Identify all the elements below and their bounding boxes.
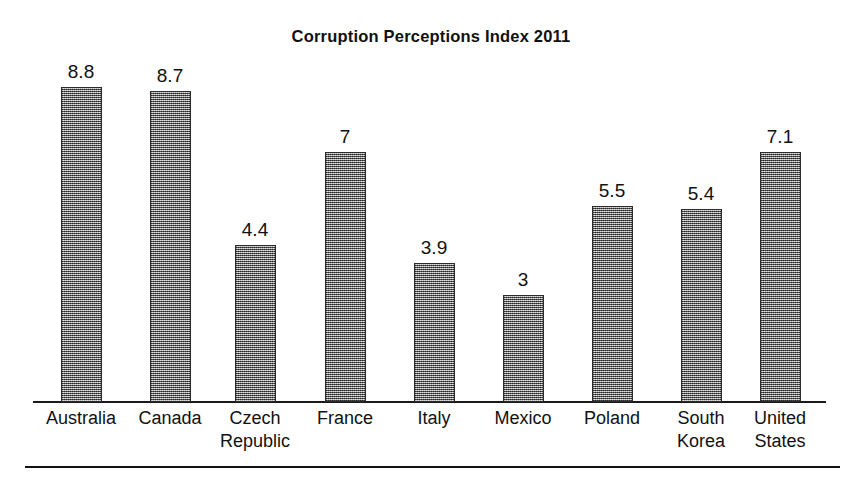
chart-figure: Corruption Perceptions Index 2011 8.8 Au… — [0, 0, 862, 484]
x-label-line: United — [731, 407, 829, 430]
bar-group-australia: 8.8 — [36, 42, 126, 402]
x-label-line: States — [731, 430, 829, 453]
x-label-line: Czech — [206, 407, 304, 430]
bar-value-label: 3 — [518, 269, 529, 290]
bar-value-label: 8.7 — [157, 65, 183, 86]
x-label-line: Poland — [563, 407, 661, 430]
bar-group-italy: 3.9 — [389, 42, 479, 402]
bar-column: 7.1 — [735, 126, 825, 402]
bar-group-mexico: 3 — [478, 42, 568, 402]
bar-rect-united-states[interactable] — [760, 152, 801, 402]
plot-area: 8.8 Australia 8.7 Canada 4.4 Czech R — [0, 0, 862, 484]
bar-rect-italy[interactable] — [414, 263, 455, 402]
bar-group-czech-republic: 4.4 — [210, 42, 300, 402]
bar-rect-australia[interactable] — [61, 87, 102, 402]
bar-group-canada: 8.7 — [125, 42, 215, 402]
bar-column: 5.5 — [567, 180, 657, 402]
bar-rect-south-korea[interactable] — [681, 209, 722, 402]
bar-value-label: 5.4 — [688, 183, 714, 204]
bar-value-label: 8.8 — [68, 61, 94, 82]
bar-rect-czech-republic[interactable] — [235, 245, 276, 402]
bar-rect-canada[interactable] — [150, 91, 191, 402]
bar-group-united-states: 7.1 — [735, 42, 825, 402]
bar-group-poland: 5.5 — [567, 42, 657, 402]
bar-value-label: 3.9 — [421, 237, 447, 258]
bar-value-label: 7 — [340, 126, 351, 147]
bar-column: 7 — [300, 126, 390, 402]
bar-rect-mexico[interactable] — [503, 295, 544, 402]
x-label-line: Italy — [385, 407, 483, 430]
bar-column: 4.4 — [210, 219, 300, 402]
x-label-line: France — [296, 407, 394, 430]
bar-value-label: 4.4 — [242, 219, 268, 240]
x-label-line: Republic — [206, 430, 304, 453]
bar-column: 8.7 — [125, 65, 215, 402]
x-label-czech-republic: Czech Republic — [206, 407, 304, 453]
x-label-poland: Poland — [563, 407, 661, 430]
x-label-line: Canada — [121, 407, 219, 430]
x-label-australia: Australia — [32, 407, 130, 430]
bar-rect-france[interactable] — [325, 152, 366, 402]
bar-column: 3 — [478, 269, 568, 402]
x-label-line: Australia — [32, 407, 130, 430]
bar-column: 5.4 — [656, 183, 746, 402]
x-label-united-states: United States — [731, 407, 829, 453]
bar-value-label: 7.1 — [767, 126, 793, 147]
x-label-italy: Italy — [385, 407, 483, 430]
x-label-france: France — [296, 407, 394, 430]
bar-group-france: 7 — [300, 42, 390, 402]
x-label-mexico: Mexico — [474, 407, 572, 430]
bar-column: 8.8 — [36, 61, 126, 402]
bottom-divider-rule — [25, 466, 840, 468]
bar-value-label: 5.5 — [599, 180, 625, 201]
bar-column: 3.9 — [389, 237, 479, 402]
bar-group-south-korea: 5.4 — [656, 42, 746, 402]
x-label-canada: Canada — [121, 407, 219, 430]
bar-rect-poland[interactable] — [592, 206, 633, 402]
x-label-line: Mexico — [474, 407, 572, 430]
